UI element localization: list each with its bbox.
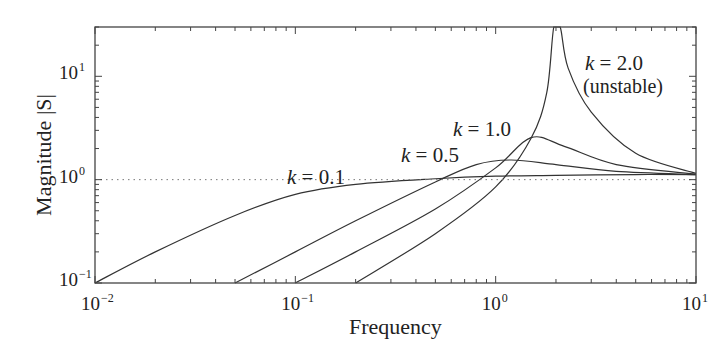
annotation-var: k <box>287 165 296 189</box>
annotation-value: = 2.0 <box>594 51 643 75</box>
y-tick-label: 101 <box>59 60 85 84</box>
x-axis-label: Frequency <box>349 314 442 340</box>
curve-k-0.1 <box>95 175 696 283</box>
x-tick-label: 100 <box>482 291 508 315</box>
annotation-k-0.1: k = 0.1 <box>287 165 345 190</box>
annotation-var: k <box>585 51 594 75</box>
y-tick-label: 100 <box>59 164 85 188</box>
curve-k-1.0 <box>295 137 696 283</box>
annotation-value: = 0.1 <box>296 165 345 189</box>
y-tick-label: 10−1 <box>59 267 92 291</box>
annotation-var: k <box>401 143 410 167</box>
annotation-value: = 1.0 <box>462 117 511 141</box>
x-tick-label: 10−1 <box>281 291 314 315</box>
annotation-unstable: (unstable) <box>583 75 663 98</box>
annotation-var: k <box>453 117 462 141</box>
annotation-k-2.0: k = 2.0 <box>585 51 643 76</box>
annotation-value: = 0.5 <box>410 143 459 167</box>
x-tick-label: 10−2 <box>81 291 114 315</box>
y-axis-label: Magnitude |S| <box>31 94 57 216</box>
annotation-k-0.5: k = 0.5 <box>401 143 459 168</box>
annotation-k-1.0: k = 1.0 <box>453 117 511 142</box>
x-tick-label: 101 <box>682 291 708 315</box>
